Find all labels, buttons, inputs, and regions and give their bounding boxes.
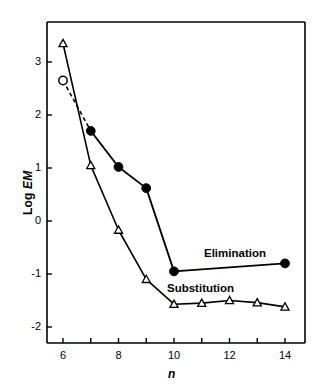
data-point-filled-circle	[142, 184, 151, 193]
y-tick-label: 2	[17, 109, 41, 120]
y-axis-title-italic: EM	[21, 170, 35, 188]
data-point-open-triangle	[87, 161, 95, 168]
data-point-open-circle	[59, 76, 67, 84]
y-tick-label: 3	[17, 56, 41, 67]
data-point-open-triangle	[59, 39, 67, 46]
data-point-filled-circle	[281, 259, 290, 268]
series-label-elimination: Elimination	[204, 248, 266, 260]
y-tick-label: -2	[17, 321, 41, 332]
series-label-substitution: Substitution	[167, 283, 234, 295]
x-tick-label: 14	[270, 350, 300, 361]
x-tick-label: 12	[215, 350, 245, 361]
series-markers	[59, 39, 290, 310]
data-point-filled-circle	[114, 163, 123, 172]
data-point-open-triangle	[114, 226, 122, 233]
x-tick-label: 10	[159, 350, 189, 361]
data-point-open-triangle	[142, 275, 150, 282]
axis-frame	[47, 22, 305, 343]
y-axis-title-prefix: Log	[21, 189, 35, 215]
chart-container: 681012143210-1-2 Log EM n Elimination Su…	[0, 0, 322, 387]
y-axis-title: Log EM	[22, 170, 34, 215]
x-tick-label: 8	[104, 350, 134, 361]
chart-plot-area	[0, 0, 322, 387]
axis-ticks	[47, 62, 285, 343]
data-point-filled-circle	[86, 126, 95, 135]
y-tick-label: 0	[17, 215, 41, 226]
x-tick-label: 6	[48, 350, 78, 361]
x-axis-title: n	[168, 368, 175, 380]
data-point-filled-circle	[170, 267, 179, 276]
y-tick-label: -1	[17, 268, 41, 279]
